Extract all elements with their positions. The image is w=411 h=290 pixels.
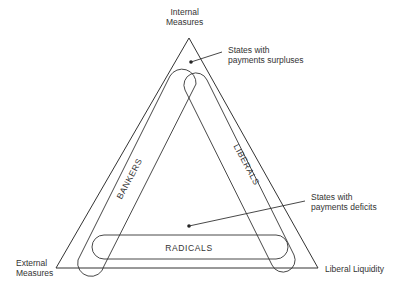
liberals-label: LIBERALS [232, 142, 262, 187]
annotation-surpluses-line1: States with [228, 45, 304, 55]
vertex-label-external-line1: External [16, 258, 53, 268]
vertex-label-internal-line1: Internal [166, 7, 203, 17]
vertex-label-internal-line2: Measures [166, 17, 203, 27]
vertex-label-external-line2: Measures [16, 268, 53, 278]
annotation-deficits-line1: States with [311, 192, 377, 202]
triangle-diagram: BANKERS LIBERALS RADICALS [0, 0, 411, 290]
annotation-surpluses: States with payments surpluses [228, 45, 304, 65]
annotation-deficits: States with payments deficits [311, 192, 377, 212]
outer-triangle [56, 38, 318, 268]
annotation-deficits-line2: payments deficits [311, 202, 377, 212]
vertex-label-liberal-liquidity: Liberal Liquidity [325, 264, 384, 274]
surplus-leader [191, 52, 222, 62]
annotation-surpluses-line2: payments surpluses [228, 55, 304, 65]
vertex-label-internal: Internal Measures [166, 7, 203, 27]
radicals-label: RADICALS [165, 243, 212, 253]
vertex-label-external: External Measures [16, 258, 53, 278]
